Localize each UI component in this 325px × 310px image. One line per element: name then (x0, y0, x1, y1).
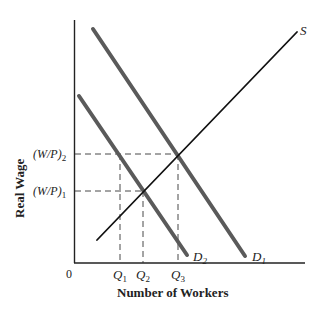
y-axis-title: Real Wage (12, 158, 27, 218)
supply-curve-s (97, 32, 297, 240)
labor-market-diagram: S D1 D2 (W/P)2 (W/P)1 0 Q1 Q2 Q3 Number … (0, 0, 325, 310)
demand-curve-d2 (79, 96, 187, 255)
demand-d1-label: D1 (251, 249, 266, 266)
supply-label: S (300, 23, 307, 38)
wage-2-label: (W/P)2 (33, 147, 66, 163)
demand-d2-label: D2 (192, 249, 207, 266)
x-axis-title: Number of Workers (117, 285, 228, 300)
q2-label: Q2 (136, 267, 150, 284)
demand-curve-d1 (93, 29, 245, 256)
wage-1-label: (W/P)1 (33, 184, 66, 200)
q3-label: Q3 (171, 267, 185, 284)
q1-label: Q1 (113, 267, 127, 284)
origin-label: 0 (66, 267, 72, 281)
